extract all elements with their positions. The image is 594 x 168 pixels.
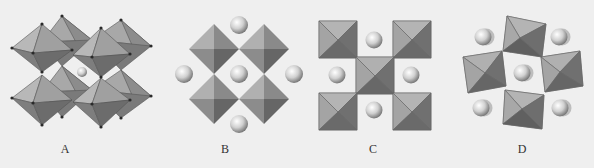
octahedron-icon bbox=[393, 21, 431, 58]
octahedron-icon bbox=[463, 51, 506, 93]
octahedron-icon bbox=[541, 51, 583, 92]
octahedron-icon bbox=[503, 16, 546, 57]
panel-label-d: D bbox=[518, 142, 527, 157]
octahedron-icon bbox=[503, 90, 544, 129]
panel-label-a: A bbox=[61, 142, 70, 157]
panel-label-c: C bbox=[369, 142, 377, 157]
octahedron-icon bbox=[319, 93, 357, 130]
panel-b-structure bbox=[175, 16, 303, 133]
panel-a-structure bbox=[10, 14, 152, 128]
cation-spheres bbox=[175, 16, 303, 133]
cation-sphere bbox=[77, 67, 87, 77]
octahedron-icon bbox=[319, 21, 357, 58]
octahedron-icon bbox=[356, 57, 394, 94]
crystal-structure-figure bbox=[0, 0, 594, 168]
octahedron-icon bbox=[189, 74, 239, 124]
figure: A B C D bbox=[0, 0, 594, 168]
octahedron-icon bbox=[189, 24, 239, 74]
panel-d-structure bbox=[463, 16, 583, 129]
octahedron-icon bbox=[239, 24, 289, 74]
octahedron-icon bbox=[393, 93, 431, 130]
octahedron-icon bbox=[239, 74, 289, 124]
panel-c-structure bbox=[319, 21, 431, 130]
panel-label-b: B bbox=[221, 142, 229, 157]
